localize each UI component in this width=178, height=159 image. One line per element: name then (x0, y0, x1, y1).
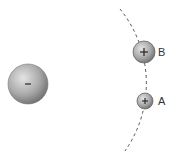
positive-sphere-a (137, 93, 153, 109)
label-a: A (158, 96, 165, 107)
negative-central-sphere (8, 64, 48, 104)
diagram-canvas (0, 0, 178, 159)
positive-sphere-b (133, 41, 155, 63)
dashed-arc-path (120, 9, 146, 151)
label-b: B (158, 47, 165, 58)
